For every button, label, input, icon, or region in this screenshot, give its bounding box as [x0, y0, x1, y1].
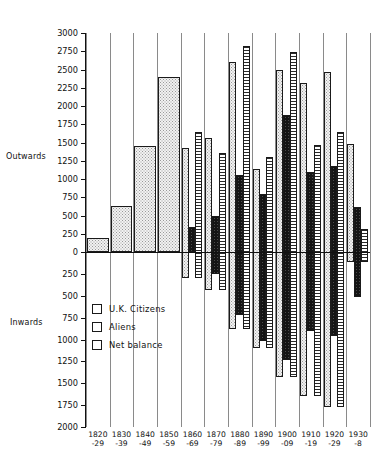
x-tick-decade-start: 1850 — [159, 430, 178, 439]
y-tick-label: 1250 — [34, 156, 78, 166]
bar-net-balance — [243, 46, 250, 329]
legend-swatch-al — [92, 322, 102, 332]
bar-aliens — [189, 227, 196, 252]
x-tick-decade-start: 1880 — [230, 430, 249, 439]
x-tick-decade-start: 1900 — [277, 430, 296, 439]
bar-net-balance — [361, 229, 368, 263]
x-tick-decade-start: 1910 — [301, 430, 320, 439]
y-tick-label: 2750 — [34, 46, 78, 56]
legend-label: Net balance — [109, 339, 163, 351]
y-tick-label: 750 — [34, 192, 78, 202]
bar-uk-citizens — [87, 238, 109, 252]
y-tick-label: 1000 — [34, 335, 78, 345]
legend-swatch-uk — [92, 304, 102, 314]
y-tick-label: 2000 — [34, 101, 78, 111]
bar-uk-citizens — [347, 144, 354, 263]
bar-net-balance — [337, 132, 344, 407]
y-tick-label: 2250 — [34, 83, 78, 93]
y-tick-label: 1750 — [34, 119, 78, 129]
bar-uk-citizens — [134, 146, 156, 252]
bar-net-balance — [290, 52, 297, 377]
bar-aliens — [283, 115, 290, 360]
x-tick-decade-start: 1890 — [254, 430, 273, 439]
bar-uk-citizens — [276, 70, 283, 378]
zero-line — [85, 252, 370, 253]
x-tick-decade-start: 1930 — [348, 430, 367, 439]
x-tick-decade-start: 1870 — [206, 430, 225, 439]
y-tick-label: 1750 — [34, 400, 78, 410]
bar-aliens — [236, 175, 243, 315]
x-tick-decade-start: 1840 — [135, 430, 154, 439]
bar-aliens — [212, 216, 219, 274]
x-tick-decade-start: 1820 — [88, 430, 107, 439]
x-tick-label: 1930-8 — [343, 430, 373, 448]
gridline — [370, 33, 371, 427]
x-tick-decade-start: 1920 — [325, 430, 344, 439]
x-tick-decade-start: 1830 — [112, 430, 131, 439]
legend-label: U.K. Citizens — [109, 303, 166, 315]
bar-aliens — [260, 194, 267, 342]
y-tick-label: 2000 — [34, 422, 78, 432]
chart-root: Outwards Inwards 30002750250022502000175… — [0, 0, 379, 461]
gridline — [86, 33, 87, 427]
y-tick-label: 3000 — [34, 28, 78, 38]
bar-net-balance — [195, 132, 202, 278]
y-tick-label: 1500 — [34, 138, 78, 148]
y-tick-label: 1250 — [34, 356, 78, 366]
y-tick-label: 1000 — [34, 174, 78, 184]
legend-label: Aliens — [109, 321, 136, 333]
y-tick-label: 2500 — [34, 65, 78, 75]
x-tick-decade-start: 1860 — [183, 430, 202, 439]
bar-uk-citizens — [158, 77, 180, 252]
bar-uk-citizens — [111, 206, 133, 252]
y-tick-label: 250 — [34, 269, 78, 279]
y-tick-label: 750 — [34, 313, 78, 323]
bar-uk-citizens — [229, 62, 236, 329]
y-tick-label: 250 — [34, 229, 78, 239]
bar-aliens — [331, 166, 338, 336]
legend-swatch-nb — [92, 340, 102, 350]
y-tick-label: 500 — [34, 211, 78, 221]
y-tick-label: 1500 — [34, 378, 78, 388]
x-tick-decade-end: -8 — [343, 439, 373, 448]
bar-uk-citizens — [253, 169, 260, 348]
bar-uk-citizens — [300, 83, 307, 397]
y-tick-label: 500 — [34, 291, 78, 301]
bar-uk-citizens — [182, 148, 189, 278]
y-axis-line — [85, 33, 86, 428]
bar-net-balance — [314, 145, 321, 397]
bar-net-balance — [219, 153, 226, 290]
bar-uk-citizens — [324, 72, 331, 407]
y-tick-label: 0 — [34, 247, 78, 257]
bar-uk-citizens — [205, 138, 212, 290]
